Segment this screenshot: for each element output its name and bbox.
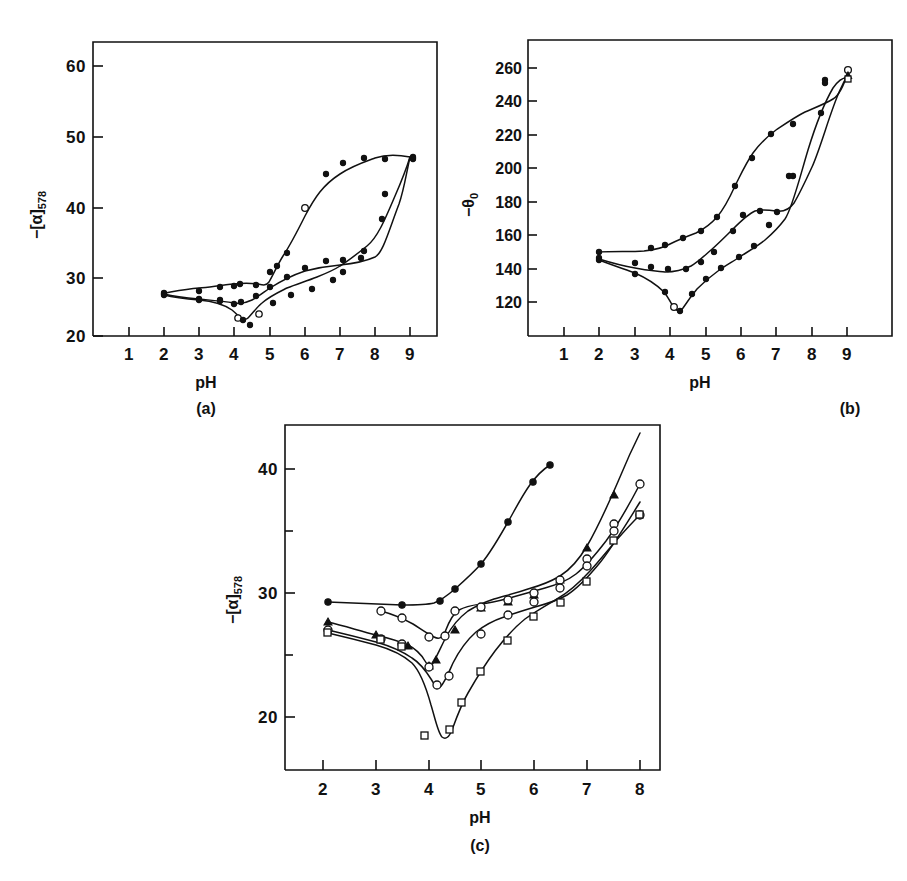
panel-b-xlabel: pH: [689, 374, 710, 391]
panel-b-ytick-240: 240: [495, 93, 522, 110]
svg-text:−[α]578: −[α]578: [28, 191, 48, 239]
panel-b-markers-upper: [596, 67, 851, 255]
panel-b-xtick-3: 3: [630, 345, 640, 364]
panel-a-xtick-6: 6: [300, 345, 310, 364]
panel-b-xtick-6: 6: [736, 345, 746, 364]
panel-c-xtick-8: 8: [635, 780, 645, 799]
panel-b-xtick-5: 5: [701, 345, 711, 364]
svg-text:−[α]578: −[α]578: [224, 576, 244, 624]
panel-b-ytick-200: 200: [495, 160, 522, 177]
panel-b: 260 240 220 200 180 160 140 120 1 2 3: [452, 0, 907, 420]
panel-c-ylabel: −[α]578: [224, 576, 244, 624]
panel-a-ylabel: −[α]578: [28, 191, 48, 239]
panel-b-ytick-260: 260: [495, 60, 522, 77]
panel-b-xtick-8: 8: [807, 345, 817, 364]
panel-b-xtick-2: 2: [594, 345, 604, 364]
panel-c-xtick-4: 4: [424, 780, 434, 799]
panel-a-xtick-4: 4: [229, 345, 239, 364]
panel-a: 60 50 40 30 20 1 2 3 4 5 6 7: [0, 0, 452, 420]
panel-c-ytick-40: 40: [258, 460, 278, 479]
panel-c-series-curve-5: [324, 511, 643, 739]
panel-b-x-ticks: [564, 327, 847, 336]
panel-c-frame: [285, 425, 660, 770]
panel-a-ytick-60: 60: [66, 57, 86, 76]
panel-b-ylabel: −θ0: [460, 193, 480, 217]
panel-b-markers-lower: [596, 76, 851, 314]
panel-b-y-ticks: [528, 68, 537, 302]
panel-b-ytick-220: 220: [495, 127, 522, 144]
panel-a-ytick-50: 50: [66, 128, 86, 147]
panel-b-ytick-120: 120: [495, 294, 522, 311]
svg-text:−θ0: −θ0: [460, 193, 480, 217]
panel-a-xtick-1: 1: [124, 345, 134, 364]
panel-c-ytick-20: 20: [258, 708, 278, 727]
figure-pH-titration: 60 50 40 30 20 1 2 3 4 5 6 7: [0, 0, 907, 881]
panel-a-xtick-8: 8: [370, 345, 380, 364]
panel-a-svg: 60 50 40 30 20 1 2 3 4 5 6 7: [0, 0, 452, 420]
panel-c: 40 30 20 2 3 4 5 6 7 8 pH (c): [180, 415, 740, 881]
panel-b-xtick-4: 4: [665, 345, 675, 364]
panel-a-xtick-3: 3: [194, 345, 204, 364]
panel-a-series-lower-branch: [164, 157, 410, 319]
panel-a-xtick-9: 9: [405, 345, 415, 364]
panel-a-xtick-7: 7: [335, 345, 345, 364]
panel-c-xlabel: pH: [469, 809, 490, 826]
panel-b-xtick-7: 7: [771, 345, 781, 364]
panel-c-ytick-30: 30: [258, 584, 278, 603]
panel-c-series-curve-1: [325, 462, 553, 608]
panel-b-frame: [528, 40, 892, 336]
panel-b-ytick-140: 140: [495, 261, 522, 278]
panel-a-series-middle-branch: [164, 157, 410, 303]
panel-a-ytick-30: 30: [66, 269, 86, 288]
panel-b-series-upper-branch: [599, 72, 848, 252]
panel-a-y-ticks: [93, 66, 103, 336]
panel-a-markers-lower: [161, 156, 415, 327]
panel-c-svg: 40 30 20 2 3 4 5 6 7 8 pH (c): [180, 415, 740, 881]
panel-a-xlabel: pH: [195, 374, 216, 391]
panel-b-markers-middle: [596, 72, 851, 272]
panel-c-xtick-2: 2: [318, 780, 328, 799]
panel-c-xtick-7: 7: [582, 780, 592, 799]
panel-c-xtick-3: 3: [371, 780, 381, 799]
panel-a-markers-middle: [161, 154, 415, 306]
panel-a-xtick-2: 2: [159, 345, 169, 364]
panel-a-ytick-20: 20: [66, 327, 86, 346]
panel-c-y-ticks: [285, 469, 295, 717]
panel-b-square-marker: [845, 76, 851, 82]
panel-c-xtick-6: 6: [529, 780, 539, 799]
panel-c-xtick-5: 5: [476, 780, 486, 799]
panel-a-ytick-40: 40: [66, 199, 86, 218]
panel-b-ytick-160: 160: [495, 227, 522, 244]
panel-b-xtick-1: 1: [559, 345, 569, 364]
panel-a-xtick-5: 5: [265, 345, 275, 364]
panel-c-label: (c): [470, 837, 490, 854]
panel-b-series-middle-branch: [599, 75, 848, 272]
panel-b-ytick-180: 180: [495, 194, 522, 211]
panel-b-xtick-9: 9: [842, 345, 852, 364]
panel-a-x-ticks: [129, 327, 410, 336]
panel-a-series-upper-branch: [164, 155, 410, 293]
panel-b-label: (b): [840, 400, 860, 417]
panel-b-svg: 260 240 220 200 180 160 140 120 1 2 3: [452, 0, 907, 420]
panel-c-x-ticks: [323, 760, 640, 770]
